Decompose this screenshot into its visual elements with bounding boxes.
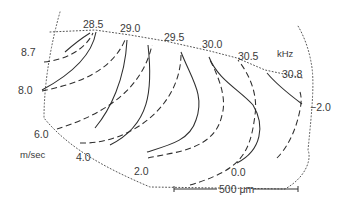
label-0.0: 0.0	[231, 166, 246, 178]
frequency-unit-label: kHz	[277, 48, 294, 59]
contour-6.0	[57, 45, 152, 129]
label-minus-2.0: −2.0	[310, 101, 331, 113]
label-30.5: 30.5	[238, 50, 259, 62]
label-28.5: 28.5	[83, 18, 104, 30]
contour-minus-2.0	[277, 92, 301, 158]
scale-bar-label: 500 μm	[219, 183, 254, 195]
label-30.0: 30.0	[202, 38, 223, 50]
label-30.8: 30.8	[282, 68, 303, 80]
contour-2.0	[148, 58, 224, 158]
label-8.0: 8.0	[18, 84, 33, 96]
contour-30.0	[147, 52, 199, 152]
label-2.0: 2.0	[134, 165, 149, 177]
contour-29.5	[110, 45, 150, 145]
tonotopic-contour-diagram: 28.5 29.0 29.5 30.0 30.5 30.8 kHz 8.7 8.…	[0, 0, 349, 204]
label-29.0: 29.0	[120, 22, 141, 34]
contour-0.0	[190, 60, 256, 185]
label-4.0: 4.0	[76, 151, 91, 163]
contour-29.0	[95, 40, 127, 128]
label-6.0: 6.0	[34, 128, 49, 140]
velocity-unit-label: m/sec	[20, 149, 46, 160]
contour-30.5	[209, 57, 260, 163]
label-29.5: 29.5	[164, 31, 185, 43]
scale-bar: 500 μm	[174, 183, 298, 195]
label-8.7: 8.7	[21, 46, 36, 58]
